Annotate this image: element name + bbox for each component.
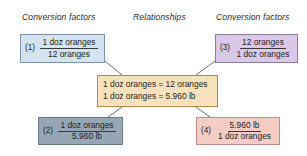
- column-header-conversion-factors-left: Conversion factors: [22, 12, 95, 22]
- conversion-factor-box-1[interactable]: (1) 1 doz oranges 12 oranges: [20, 34, 105, 63]
- conversion-factor-3-denominator: 1 doz oranges: [234, 49, 291, 59]
- conversion-factor-box-4[interactable]: (4) 5.960 lb 1 doz oranges: [196, 117, 280, 145]
- conversion-factor-4-label: (4): [201, 127, 211, 135]
- conversion-factor-3-label: (3): [220, 44, 230, 52]
- conversion-factor-1-denominator: 12 oranges: [46, 49, 92, 59]
- relationship-line-2: 1 doz oranges = 5.960 lb: [103, 91, 195, 103]
- connector-box1-to-center: [105, 61, 122, 75]
- conversion-factor-4-numerator: 5.960 lb: [228, 121, 262, 132]
- conversion-factor-2-numerator: 1 doz oranges: [58, 121, 115, 132]
- conversion-factor-1-numerator: 1 doz oranges: [40, 38, 97, 49]
- conversion-factor-1-label: (1): [25, 44, 35, 52]
- conversion-factor-box-2[interactable]: (2) 1 doz oranges 5.960 lb: [38, 117, 123, 145]
- conversion-factor-4-fraction: 5.960 lb 1 doz oranges: [215, 121, 274, 141]
- relationships-box[interactable]: 1 doz oranges = 12 oranges 1 doz oranges…: [97, 75, 218, 107]
- conversion-factor-2-label: (2): [43, 127, 53, 135]
- conversion-factor-4-denominator: 1 doz oranges: [216, 132, 273, 142]
- column-header-relationships: Relationships: [133, 12, 186, 22]
- connector-box3-to-center: [196, 61, 215, 75]
- column-header-conversion-factors-right: Conversion factors: [216, 12, 289, 22]
- conversion-factor-3-fraction: 12 oranges 1 doz oranges: [234, 38, 292, 58]
- conversion-factor-1-fraction: 1 doz oranges 12 oranges: [39, 38, 99, 58]
- conversion-factor-2-fraction: 1 doz oranges 5.960 lb: [57, 121, 117, 141]
- conversion-factor-box-3[interactable]: (3) 12 oranges 1 doz oranges: [215, 34, 298, 63]
- conversion-factors-diagram: Conversion factors Relationships Convers…: [0, 0, 307, 156]
- conversion-factor-2-denominator: 5.960 lb: [70, 132, 104, 142]
- relationship-line-1: 1 doz oranges = 12 oranges: [103, 79, 208, 91]
- conversion-factor-3-numerator: 12 oranges: [240, 38, 286, 49]
